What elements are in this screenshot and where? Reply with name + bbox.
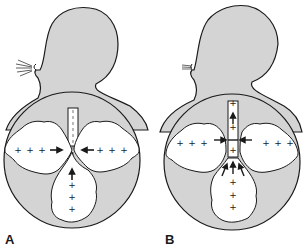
svg-text:+: + [274, 138, 282, 148]
svg-text:+: + [200, 138, 208, 148]
mouth [34, 64, 36, 70]
panel-b: +++ +++ +++ +++ B [154, 0, 308, 252]
svg-text:+: + [229, 190, 237, 200]
panel-label-b: B [165, 232, 174, 247]
breath-lines-icon [16, 60, 32, 76]
svg-text:+: + [68, 204, 76, 214]
svg-text:+: + [229, 145, 237, 155]
svg-text:+: + [229, 177, 237, 187]
svg-text:+: + [14, 145, 22, 155]
svg-text:+: + [68, 192, 76, 202]
panel-label-a: A [5, 232, 14, 247]
svg-text:+: + [108, 145, 116, 155]
svg-text:+: + [176, 138, 184, 148]
svg-text:+: + [26, 145, 34, 155]
svg-text:+: + [286, 138, 294, 148]
svg-text:+: + [38, 145, 46, 155]
svg-text:+: + [262, 138, 270, 148]
diagram-a: +++ +++ +++ [0, 0, 154, 252]
panel-a: +++ +++ +++ A [0, 0, 154, 252]
svg-text:+: + [229, 98, 237, 108]
diagram-b: +++ +++ +++ +++ [154, 0, 308, 252]
svg-text:+: + [120, 145, 128, 155]
svg-text:+: + [229, 202, 237, 212]
svg-text:+: + [96, 145, 104, 155]
svg-text:+: + [68, 180, 76, 190]
svg-text:+: + [188, 138, 196, 148]
